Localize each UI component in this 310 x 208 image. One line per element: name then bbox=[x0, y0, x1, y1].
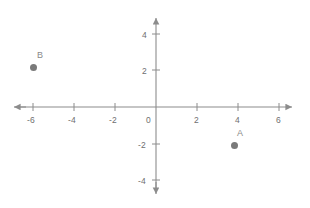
x-tick-label--4: -4 bbox=[68, 115, 76, 125]
data-point-a-label: A bbox=[237, 128, 243, 138]
data-point-b-label: B bbox=[37, 50, 43, 60]
y-tick-label-4: 4 bbox=[142, 30, 147, 40]
data-point-a[interactable] bbox=[231, 142, 238, 149]
x-tick-label-0: 0 bbox=[146, 115, 151, 125]
y-tick-label--2: -2 bbox=[138, 140, 146, 150]
axes-group bbox=[0, 0, 310, 208]
y-tick-label--4: -4 bbox=[138, 176, 146, 186]
x-tick-label--6: -6 bbox=[27, 115, 35, 125]
data-point-b[interactable] bbox=[30, 64, 37, 71]
x-tick-label-2: 2 bbox=[194, 115, 199, 125]
x-tick-label-4: 4 bbox=[235, 115, 240, 125]
y-tick-label-2: 2 bbox=[142, 66, 147, 76]
coordinate-plane: -6 -4 -2 0 2 4 6 4 2 -2 -4 A B bbox=[0, 0, 310, 208]
x-tick-label--2: -2 bbox=[109, 115, 117, 125]
x-tick-label-6: 6 bbox=[276, 115, 281, 125]
